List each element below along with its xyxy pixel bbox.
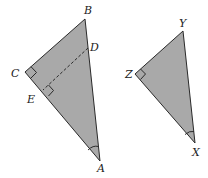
label-a: A — [96, 162, 105, 175]
label-c: C — [11, 67, 20, 80]
label-b: B — [83, 4, 92, 17]
label-z: Z — [124, 68, 133, 81]
triangle-abc — [25, 19, 100, 161]
geometry-diagram: B C D E A Y Z X — [0, 0, 208, 178]
triangle-xyz — [135, 31, 195, 143]
label-d: D — [89, 41, 99, 54]
label-y: Y — [179, 17, 188, 30]
label-e: E — [26, 93, 35, 106]
label-x: X — [191, 146, 201, 159]
